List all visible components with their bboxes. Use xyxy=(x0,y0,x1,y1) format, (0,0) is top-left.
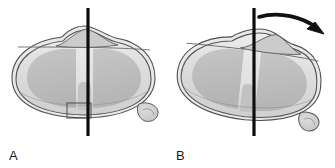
panel-label-a: A xyxy=(9,149,18,162)
panel-a-illustration xyxy=(0,0,167,168)
figure-root: A xyxy=(0,0,335,168)
inferior-right-nodule xyxy=(137,103,158,122)
panel-label-b: B xyxy=(176,149,185,162)
inferior-right-nodule xyxy=(297,111,320,132)
panel-b: B xyxy=(167,0,334,168)
panel-a: A xyxy=(0,0,167,168)
rotation-arrow-shaft xyxy=(259,15,317,28)
panel-b-illustration xyxy=(167,0,335,168)
